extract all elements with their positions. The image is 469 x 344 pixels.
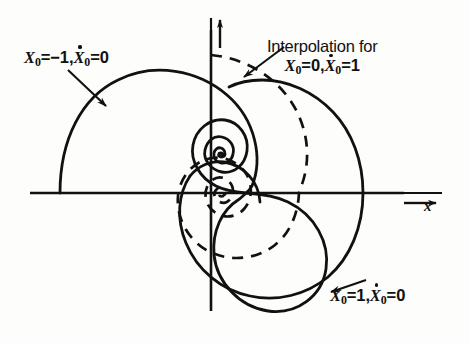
leader-arrow-left <box>68 70 106 106</box>
dashed-spiral-curve <box>178 55 307 258</box>
label-interpolation-value-2: 1 <box>351 56 360 74</box>
label-left-variable: X <box>24 48 35 67</box>
label-interpolation-dot-variable: X <box>324 57 335 75</box>
label-bottom-variable: X <box>330 286 341 305</box>
x-axis-label: x <box>424 198 431 215</box>
solid-spiral-lower-loop <box>180 176 363 298</box>
label-bottom-equals-1: = <box>347 286 357 304</box>
label-interpolation: Interpolation for X0=0,X0=1 <box>267 37 377 78</box>
label-interpolation-title: Interpolation for <box>267 37 377 55</box>
label-left-equals-1: = <box>41 48 51 66</box>
label-left-equals-2: = <box>90 48 100 66</box>
label-bottom-dot-variable: X <box>370 287 381 305</box>
label-interpolation-equals-2: = <box>341 56 351 74</box>
label-left-value-2: 0 <box>100 48 109 66</box>
label-interpolation-value-1: 0 <box>311 56 320 74</box>
solid-spiral-curve <box>60 70 327 311</box>
label-left-dot-variable: X <box>73 49 84 67</box>
label-left-value-1: −1 <box>50 48 69 66</box>
label-bottom-value-1: 1 <box>356 286 365 304</box>
label-interpolation-variable: X <box>285 56 296 75</box>
label-bottom-equals-2: = <box>387 286 397 304</box>
figure-container: X0=−1,X0=0 Interpolation for X0=0,X0=1 X… <box>0 0 469 344</box>
label-interpolation-equals-1: = <box>301 56 311 74</box>
label-bottom-value-2: 0 <box>396 286 405 304</box>
label-initial-condition-positive-one: X0=1,X0=0 <box>330 286 405 308</box>
label-interpolation-conditions: X0=0,X0=1 <box>267 56 377 78</box>
label-initial-condition-negative-one: X0=−1,X0=0 <box>24 48 109 70</box>
